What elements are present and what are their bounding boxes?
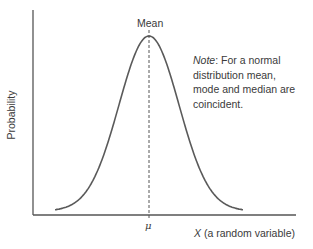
mu-tick-label: μ: [145, 221, 152, 231]
x-axis-label: X (a random variable): [194, 228, 295, 239]
mean-label: Mean: [137, 18, 163, 29]
x-axis-label-var: X: [194, 227, 201, 239]
note-annotation: Note: For a normal distribution mean, mo…: [193, 53, 303, 111]
x-axis-label-rest: (a random variable): [201, 227, 295, 239]
note-prefix: Note: [193, 54, 215, 66]
y-axis-label: Probability: [5, 90, 17, 139]
chart-canvas: [0, 0, 313, 249]
